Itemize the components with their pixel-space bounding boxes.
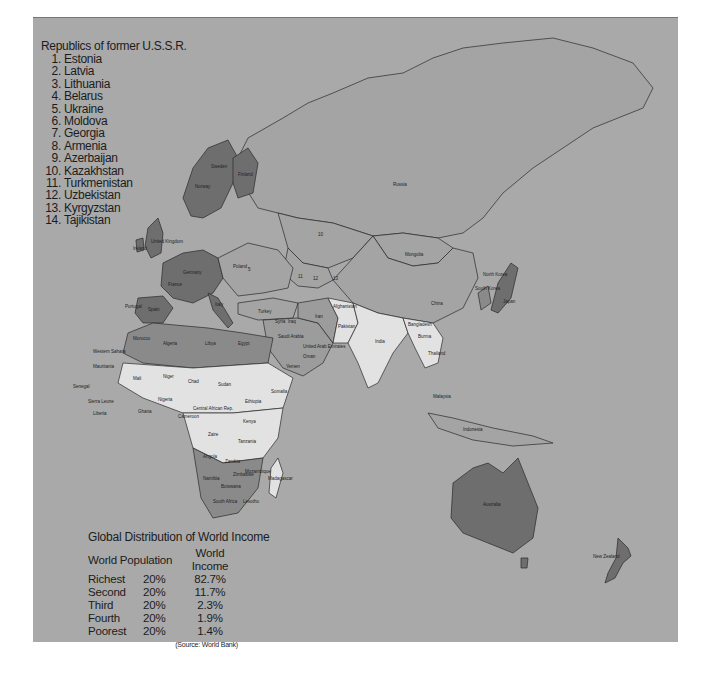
- map-frame: Russia Mongolia China India Japan North …: [33, 17, 678, 642]
- label-yemen: Yemen: [286, 364, 300, 369]
- table-header-row: World Population World Income: [88, 547, 240, 573]
- label-spain: Spain: [148, 307, 160, 312]
- label-japan: Japan: [503, 299, 516, 304]
- label-num-10: 10: [318, 232, 324, 237]
- republics-list: 1.Estonia 2.Latvia 3.Lithuania 4.Belarus…: [41, 53, 187, 227]
- list-item: 2.Latvia: [41, 65, 187, 77]
- label-uk: United Kingdom: [151, 239, 183, 244]
- label-turkey: Turkey: [258, 309, 272, 314]
- label-cameroon: Cameroon: [178, 414, 200, 419]
- legend-title: Republics of former U.S.S.R.: [41, 40, 187, 53]
- label-afghanistan: Afghanistan: [333, 304, 357, 309]
- label-sweden: Sweden: [211, 164, 228, 169]
- label-south-africa: South Africa: [213, 499, 238, 504]
- label-chad: Chad: [188, 379, 199, 384]
- label-new-zealand: New Zealand: [593, 554, 620, 559]
- label-finland: Finland: [238, 172, 253, 177]
- region-scandinavia: [183, 140, 238, 218]
- label-poland: Poland: [233, 264, 248, 269]
- label-bangladesh: Bangladesh: [408, 322, 432, 327]
- label-burma: Burma: [418, 334, 432, 339]
- income-table-title: Global Distribution of World Income: [88, 530, 270, 544]
- label-saudi-arabia: Saudi Arabia: [278, 334, 304, 339]
- label-tanzania: Tanzania: [238, 439, 257, 444]
- list-item: 5.Ukraine: [41, 103, 187, 115]
- label-num-12: 12: [313, 276, 319, 281]
- region-western-europe: [161, 250, 223, 303]
- label-niger: Niger: [163, 374, 174, 379]
- region-russia: [233, 38, 653, 238]
- region-tasmania: [521, 558, 528, 568]
- label-syria: Syria: [275, 319, 286, 324]
- label-mali: Mali: [133, 376, 141, 381]
- source-row: (Source: World Bank): [88, 638, 240, 651]
- label-botswana: Botswana: [221, 484, 241, 489]
- label-south-korea: South Korea: [475, 286, 501, 291]
- label-france: France: [168, 282, 183, 287]
- label-morocco: Morocco: [133, 336, 151, 341]
- label-egypt: Egypt: [238, 341, 250, 346]
- label-lesotho: Lesotho: [243, 499, 260, 504]
- label-oman: Oman: [303, 354, 316, 359]
- label-somalia: Somalia: [271, 389, 288, 394]
- label-italy: Italy: [215, 302, 224, 307]
- label-kenya: Kenya: [243, 419, 256, 424]
- label-senegal: Senegal: [73, 384, 90, 389]
- label-nigeria: Nigeria: [158, 397, 173, 402]
- header-income: World Income: [180, 547, 240, 573]
- list-item: 13.Kyrgyzstan: [41, 202, 187, 214]
- label-china: China: [431, 301, 443, 306]
- list-item: 1.Estonia: [41, 53, 187, 65]
- label-ireland: Ireland: [133, 246, 147, 251]
- income-distribution-table: Global Distribution of World Income Worl…: [88, 530, 270, 651]
- label-indonesia: Indonesia: [463, 427, 483, 432]
- label-pakistan: Pakistan: [338, 324, 356, 329]
- label-zaire: Zaire: [208, 432, 219, 437]
- label-mauritania: Mauritania: [93, 364, 115, 369]
- source-note: (Source: World Bank): [88, 638, 240, 651]
- label-western-sahara: Western Sahara: [93, 349, 126, 354]
- ussr-republics-legend: Republics of former U.S.S.R. 1.Estonia 2…: [41, 40, 187, 227]
- list-item: 7.Georgia: [41, 127, 187, 139]
- label-ghana: Ghana: [138, 409, 152, 414]
- label-zimbabwe: Zimbabwe: [233, 472, 254, 477]
- label-car: Central African Rep.: [193, 406, 233, 411]
- label-madagascar: Madagascar: [268, 476, 293, 481]
- label-sierra-leone: Sierra Leone: [88, 399, 114, 404]
- label-ethiopia: Ethiopia: [245, 399, 262, 404]
- label-iraq: Iraq: [288, 319, 296, 324]
- region-italy: [208, 293, 233, 328]
- label-liberia: Liberia: [93, 411, 107, 416]
- label-namibia: Namibia: [203, 476, 220, 481]
- label-portugal: Portugal: [125, 304, 142, 309]
- label-malaysia: Malaysia: [433, 394, 451, 399]
- list-item: 6.Moldova: [41, 115, 187, 127]
- income-table: World Population World Income Richest 20…: [88, 547, 240, 651]
- list-item: 14.Tajikistan: [41, 214, 187, 226]
- label-sudan: Sudan: [218, 382, 232, 387]
- label-libya: Libya: [205, 341, 216, 346]
- label-algeria: Algeria: [163, 341, 178, 346]
- label-angola: Angola: [203, 454, 218, 459]
- label-iran: Iran: [315, 314, 323, 319]
- label-mongolia: Mongolia: [405, 252, 424, 257]
- label-north-korea: North Korea: [483, 272, 508, 277]
- label-australia: Australia: [483, 502, 501, 507]
- list-item: 4.Belarus: [41, 90, 187, 102]
- table-row: Third 20% 2.3%: [88, 599, 240, 612]
- label-num-13: 13: [333, 276, 339, 281]
- region-indonesia: [428, 413, 553, 446]
- label-zambia: Zambia: [225, 459, 241, 464]
- label-germany: Germany: [183, 270, 202, 275]
- label-uae: United Arab Emirates: [303, 344, 346, 349]
- header-population: World Population: [88, 547, 180, 573]
- region-eastern-europe: [218, 243, 293, 296]
- region-north-africa: [123, 323, 273, 368]
- label-norway: Norway: [195, 184, 211, 189]
- region-new-zealand: [605, 538, 631, 583]
- label-num-11: 11: [298, 274, 303, 279]
- label-russia: Russia: [393, 182, 407, 187]
- label-india: India: [375, 339, 385, 344]
- table-row: Richest 20% 82.7%: [88, 573, 240, 586]
- table-row: Poorest 20% 1.4%: [88, 625, 240, 638]
